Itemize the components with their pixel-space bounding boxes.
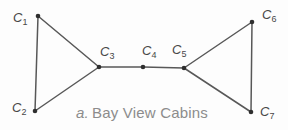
vertex-dot-C4 [141,65,146,70]
caption-prefix: a. [76,104,89,121]
vertex-label-C1: C1 [13,10,27,27]
caption-title: Bay View Cabins [92,104,208,121]
edge-C4-C5 [143,67,184,68]
graph-figure: C1C2C3C4C5C6C7 a.Bay View Cabins [0,0,288,130]
vertex-dot-C7 [249,110,254,115]
vertex-label-C2: C2 [12,100,26,117]
vertex-label-C5: C5 [172,42,186,59]
vertex-dot-C5 [182,66,187,71]
vertex-dot-C3 [97,65,102,70]
edge-C1-C3 [38,16,99,67]
vertex-label-C3: C3 [100,44,114,61]
vertex-label-C7: C7 [260,104,274,121]
edge-C1-C2 [35,16,38,111]
figure-caption: a.Bay View Cabins [76,104,208,121]
vertex-label-C4: C4 [142,43,156,60]
edge-C6-C7 [251,22,252,112]
vertex-label-C6: C6 [262,7,276,24]
vertex-dot-C1 [36,14,41,19]
edge-C5-C6 [184,22,252,68]
vertex-dot-C2 [33,109,38,114]
vertex-dot-C6 [250,20,255,25]
